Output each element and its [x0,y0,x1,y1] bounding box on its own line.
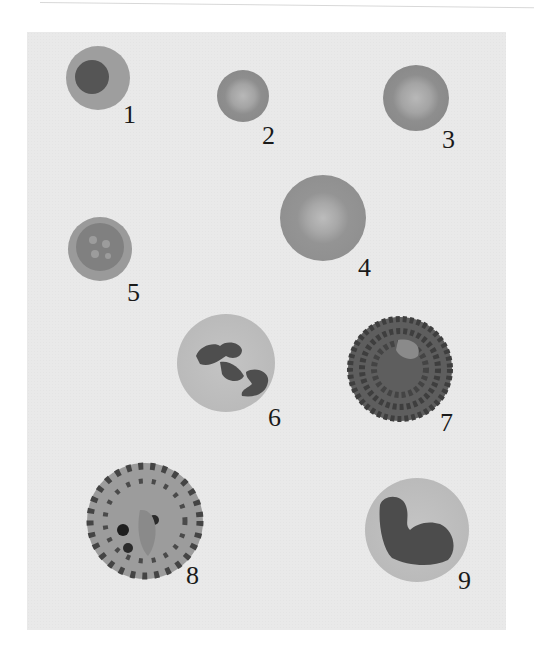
cell-label-2: 2 [262,123,275,149]
cell-6 [177,314,275,412]
cell-label-3: 3 [442,127,455,153]
cell-4 [280,175,366,261]
cell-label-6: 6 [268,405,281,431]
cell-label-1: 1 [123,102,136,128]
cell-9 [365,478,469,582]
cell-2 [217,70,269,122]
cell-1 [66,46,130,110]
cell-3 [383,65,449,131]
cell-label-8: 8 [186,563,199,589]
cells-illustration [0,0,534,656]
cell-label-9: 9 [458,568,471,594]
cell-label-4: 4 [358,255,371,281]
cell-label-7: 7 [440,410,453,436]
cell-label-5: 5 [127,280,140,306]
cell-7 [348,317,452,421]
cell-5 [68,217,132,281]
